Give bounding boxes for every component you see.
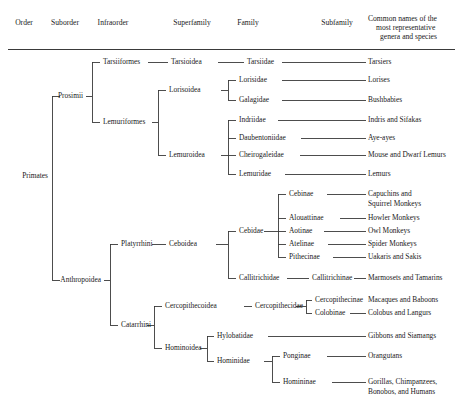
common-name-great-apes-line1: Gorillas, Chimpanzees, (368, 378, 437, 387)
common-name-capuchins-line2: Squirrel Monkeys (368, 200, 421, 209)
node-family-daubentoniidae: Daubentoniidae (239, 134, 286, 143)
node-subfamily-homininae: Homininae (283, 378, 316, 387)
node-superfamily-ceboidea: Ceboidea (169, 240, 197, 249)
node-subfamily-colobinae: Colobinae (315, 309, 345, 318)
node-subfamily-cercopithecinae: Cercopithecinae (315, 296, 363, 305)
node-family-callitrichidae: Callitrichidae (239, 274, 279, 283)
primate-taxonomy-figure: Order Suborder Infraorder Superfamily Fa… (0, 0, 463, 404)
node-superfamily-tarsioidea: Tarsioidea (171, 58, 202, 67)
column-header-common-line2: most representative (376, 23, 435, 32)
node-family-cebidae: Cebidae (239, 227, 263, 236)
common-name-great-apes-line2: Bonobos, and Humans (368, 388, 435, 397)
column-header-subfamily: Subfamily (321, 18, 353, 27)
common-name-howler-monkeys: Howler Monkeys (368, 214, 420, 223)
column-header-common-line3: genera and species (380, 32, 437, 41)
node-superfamily-lemuroidea: Lemuroidea (169, 151, 205, 160)
node-subfamily-atelinae: Atelinae (289, 240, 314, 249)
node-infraorder-platyrrhini: Platyrrhini (121, 240, 153, 249)
common-name-lemurs: Lemurs (368, 170, 391, 179)
common-name-marmosets-tamarins: Marmosets and Tamarins (368, 274, 442, 283)
column-header-superfamily: Superfamily (173, 18, 211, 27)
node-subfamily-aotinae: Aotinae (289, 227, 312, 236)
node-infraorder-catarrhini: Catarrhini (121, 321, 151, 330)
common-name-gibbons-siamangs: Gibbons and Siamangs (368, 332, 436, 341)
node-order-primates: Primates (22, 172, 48, 181)
common-name-indris-sifakas: Indris and Sifakas (368, 116, 421, 125)
node-subfamily-alouattinae: Alouattinae (289, 214, 323, 223)
node-subfamily-pithecinae: Pithecinae (289, 253, 320, 262)
node-superfamily-hominoidea: Hominoidea (165, 344, 202, 353)
common-name-mouse-dwarf-lemurs: Mouse and Dwarf Lemurs (368, 151, 446, 160)
common-name-spider-monkeys: Spider Monkeys (368, 240, 417, 249)
common-name-capuchins-line1: Capuchins and (368, 190, 412, 199)
common-name-macaques-baboons: Macaques and Baboons (368, 296, 438, 305)
node-family-indriidae: Indriidae (239, 116, 266, 125)
node-family-galagidae: Galagidae (239, 96, 269, 105)
common-name-aye-ayes: Aye-ayes (368, 134, 395, 143)
column-header-infraorder: Infraorder (98, 18, 129, 27)
node-subfamily-ponginae: Ponginae (283, 352, 311, 361)
common-name-orangutans: Orangutans (368, 352, 402, 361)
node-suborder-prosimii: Prosimii (58, 92, 83, 101)
node-superfamily-cercopithecoidea: Cercopithecoidea (165, 302, 217, 311)
common-name-tarsiers: Tarsiers (368, 58, 391, 67)
node-family-tarsiidae: Tarsiidae (247, 58, 274, 67)
node-family-cercopithecidae: Cercopithecidae (255, 302, 303, 311)
common-name-uakaris-sakis: Uakaris and Sakis (368, 253, 421, 262)
node-family-hylobatidae: Hylobatidae (217, 332, 253, 341)
node-infraorder-lemuriformes: Lemuriformes (103, 118, 145, 127)
node-family-lemuridae: Lemuridae (239, 170, 271, 179)
node-suborder-anthropoidea: Anthropoidea (60, 276, 101, 285)
node-subfamily-callitrichinae: Callitrichinae (312, 274, 352, 283)
common-name-owl-monkeys: Owl Monkeys (368, 227, 410, 236)
column-header-family: Family (237, 18, 259, 27)
column-header-suborder: Suborder (51, 18, 79, 27)
node-family-cheirogaleidae: Cheirogaleidae (239, 151, 284, 160)
column-header-common-line1: Common names of the (368, 14, 437, 23)
node-subfamily-cebinae: Cebinae (289, 190, 313, 199)
node-infraorder-tarsiiformes: Tarsiiformes (103, 58, 140, 67)
common-name-colobus-langurs: Colobus and Langurs (368, 309, 431, 318)
node-superfamily-lorisoidea: Lorisoidea (169, 86, 201, 95)
node-family-lorisidae: Lorisidae (239, 76, 267, 85)
node-family-hominidae: Hominidae (217, 357, 250, 366)
column-header-order: Order (15, 18, 33, 27)
common-name-lorises: Lorises (368, 76, 390, 85)
common-name-bushbabies: Bushbabies (368, 96, 402, 105)
